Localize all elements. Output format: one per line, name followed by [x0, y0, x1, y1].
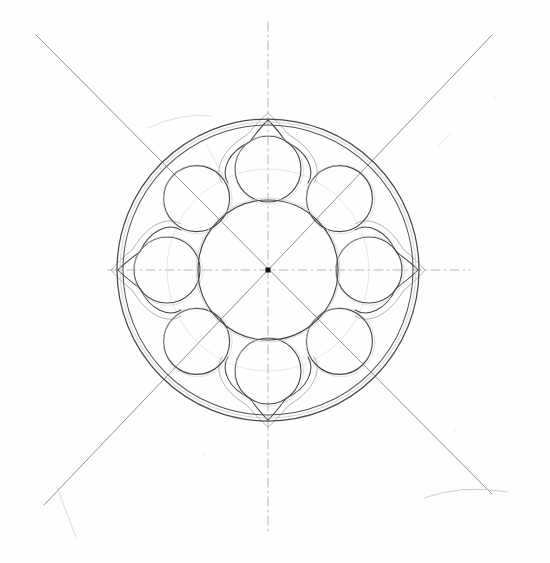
stray-arc-top-right [148, 115, 212, 128]
stray-smudge-left [206, 144, 226, 182]
diagonal-nw-se [36, 35, 492, 494]
paper-speck-4 [454, 429, 456, 431]
stray-arc-bottom-right [424, 489, 508, 498]
paper-speck-3 [119, 59, 121, 61]
paper-speck-1 [494, 97, 496, 99]
stray-line-bottom-left [57, 487, 76, 537]
paper-speck-0 [39, 209, 41, 211]
stray-tick-top-right [438, 133, 452, 146]
center-point [266, 268, 271, 273]
paper-speck-2 [204, 454, 206, 456]
drawing-sheet [0, 0, 550, 563]
construction-drawing-canvas [0, 0, 550, 563]
